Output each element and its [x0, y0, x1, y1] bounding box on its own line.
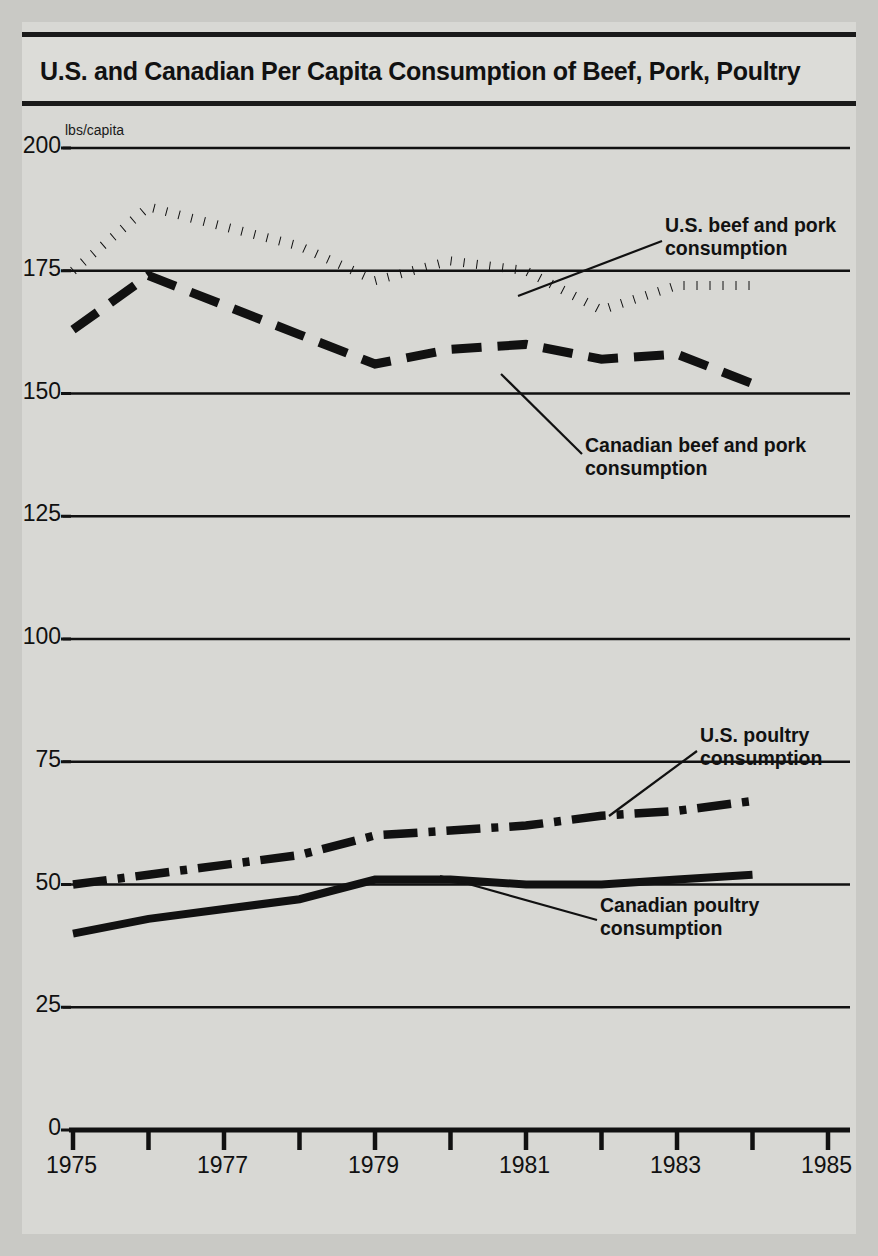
leader-us-beef-pork — [518, 241, 662, 296]
annotation-us-poultry: U.S. poultry consumption — [700, 724, 822, 769]
x-tick-label-1981: 1981 — [499, 1152, 550, 1179]
series-line-0 — [73, 207, 753, 310]
y-tick-label-0: 0 — [48, 1114, 61, 1141]
y-tick-label-75: 75 — [35, 746, 61, 773]
y-tick-label-200: 200 — [23, 132, 61, 159]
y-tick-label-50: 50 — [35, 869, 61, 896]
annotation-us-beef-pork: U.S. beef and pork consumption — [665, 214, 836, 259]
y-tick-label-175: 175 — [23, 255, 61, 282]
annotation-canadian-beef-pork: Canadian beef and pork consumption — [585, 434, 806, 479]
annotation-line-1: Canadian poultry — [600, 894, 759, 917]
annotation-line-1: U.S. poultry — [700, 724, 822, 747]
series-line-2 — [73, 801, 753, 884]
x-tick-label-1983: 1983 — [650, 1152, 701, 1179]
x-tick-label-1975: 1975 — [46, 1152, 97, 1179]
annotation-canadian-poultry: Canadian poultry consumption — [600, 894, 759, 939]
x-tick-label-1979: 1979 — [348, 1152, 399, 1179]
chart-plot-area — [22, 22, 856, 1234]
annotation-line-2: consumption — [700, 747, 822, 770]
line-chart-svg — [22, 22, 856, 1234]
y-tick-label-125: 125 — [23, 500, 61, 527]
y-tick-label-100: 100 — [23, 623, 61, 650]
leader-canadian-beef-pork — [501, 374, 582, 454]
y-tick-label-150: 150 — [23, 378, 61, 405]
annotation-line-2: consumption — [600, 917, 759, 940]
annotation-line-2: consumption — [665, 237, 836, 260]
annotation-line-1: Canadian beef and pork — [585, 434, 806, 457]
annotation-line-2: consumption — [585, 457, 806, 480]
x-tick-label-1985: 1985 — [801, 1152, 852, 1179]
series-line-1 — [73, 276, 753, 384]
x-tick-label-1977: 1977 — [197, 1152, 248, 1179]
y-tick-label-25: 25 — [35, 991, 61, 1018]
annotation-line-1: U.S. beef and pork — [665, 214, 836, 237]
figure-panel: U.S. and Canadian Per Capita Consumption… — [22, 22, 856, 1234]
y-axis-unit-label: lbs/capita — [65, 122, 124, 138]
